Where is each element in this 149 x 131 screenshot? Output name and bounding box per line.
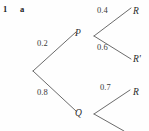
probability-label-Q-to-R: 0.7 bbox=[100, 83, 111, 92]
probability-label-P-to-R: 0.4 bbox=[97, 6, 108, 15]
node-label-R-top: R bbox=[133, 7, 139, 17]
node-label-Q: Q bbox=[75, 109, 82, 119]
node-label-P: P bbox=[75, 29, 81, 39]
branch-Q-to-R bbox=[94, 90, 130, 114]
branch-Q-to-Rprime bbox=[94, 114, 124, 131]
probability-label-root-to-P: 0.2 bbox=[37, 39, 48, 48]
probability-tree-diagram: 1 a P Q R R' R 0.2 0.8 0.4 0.6 0.7 bbox=[0, 0, 149, 131]
node-label-R-prime-top: R' bbox=[133, 55, 141, 65]
node-label-R-bottom: R bbox=[133, 88, 139, 98]
probability-label-P-to-R-prime: 0.6 bbox=[97, 43, 108, 52]
probability-label-root-to-Q: 0.8 bbox=[37, 88, 48, 97]
